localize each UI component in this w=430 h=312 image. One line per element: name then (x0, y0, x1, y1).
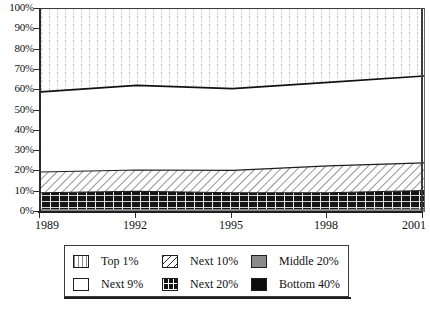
legend-item[interactable]: Next 10% (162, 250, 238, 272)
y-axis-labels: 0%10%20%30%40%50%60%70%80%90%100% (0, 0, 34, 225)
legend-baseline (64, 297, 351, 299)
y-axis-tick-label: 60% (2, 83, 34, 93)
legend-item[interactable]: Next 20% (162, 273, 238, 295)
legend-item[interactable]: Middle 20% (251, 250, 339, 272)
plot-area (39, 8, 425, 212)
y-axis-tick-label: 0% (2, 205, 34, 215)
legend-label: Next 10% (190, 255, 238, 268)
x-axis-tick-label: 1995 (206, 219, 256, 232)
x-axis-tick-label: 2001 (376, 219, 426, 232)
legend-swatch-icon (162, 255, 178, 268)
band-next-9 (41, 76, 424, 172)
legend-swatch-icon (251, 278, 267, 291)
legend-label: Next 20% (190, 278, 238, 291)
legend-item[interactable]: Top 1% (73, 250, 139, 272)
legend-label: Middle 20% (279, 255, 339, 268)
y-axis-tick-label: 80% (2, 43, 34, 53)
plot-right-edge (421, 8, 423, 212)
y-axis-tick-label: 70% (2, 63, 34, 73)
legend-row: Top 1%Next 10%Middle 20% (65, 250, 350, 272)
y-axis-tick-label: 30% (2, 144, 34, 154)
legend-swatch-icon (73, 278, 89, 291)
y-axis-tick-label: 20% (2, 164, 34, 174)
chart-figure: 0%10%20%30%40%50%60%70%80%90%100% (0, 0, 430, 312)
legend: Top 1%Next 10%Middle 20%Next 9%Next 20%B… (64, 245, 349, 297)
stacked-area-series (41, 9, 424, 212)
y-axis-tick-label: 10% (2, 185, 34, 195)
y-axis-tick-label: 40% (2, 124, 34, 134)
x-axis-tick-label: 1998 (301, 219, 351, 232)
legend-label: Bottom 40% (279, 278, 340, 291)
legend-row: Next 9%Next 20%Bottom 40% (65, 273, 350, 295)
legend-label: Top 1% (101, 255, 139, 268)
y-axis-tick-label: 100% (2, 2, 34, 12)
x-axis-tick-label: 1992 (110, 219, 160, 232)
legend-swatch-icon (73, 255, 89, 268)
legend-swatch-icon (162, 278, 178, 291)
legend-item[interactable]: Bottom 40% (251, 273, 340, 295)
band-next-20 (41, 190, 424, 209)
x-axis-tick-label: 1989 (35, 219, 85, 232)
y-axis-tick-label: 90% (2, 22, 34, 32)
legend-label: Next 9% (101, 278, 143, 291)
y-axis-tick-label: 50% (2, 104, 34, 114)
legend-item[interactable]: Next 9% (73, 273, 143, 295)
legend-swatch-icon (251, 255, 267, 268)
